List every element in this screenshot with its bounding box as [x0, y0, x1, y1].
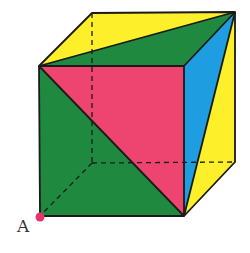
- point-a-label: A: [16, 216, 30, 236]
- point-a-marker: [36, 213, 45, 222]
- cube-diagram: A: [0, 0, 250, 253]
